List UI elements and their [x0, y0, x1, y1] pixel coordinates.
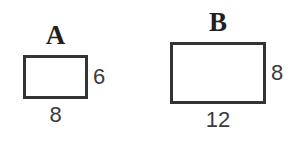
rectangle-a: [23, 55, 88, 99]
shape-label-a: A: [23, 22, 88, 49]
shape-label-b: B: [170, 9, 266, 36]
rectangle-b: [170, 42, 266, 104]
dimension-b-height: 8: [271, 62, 283, 84]
dimension-a-height: 6: [93, 66, 105, 88]
dimension-a-width: 8: [23, 104, 88, 126]
rectangles-diagram: A 6 8 B 8 12: [0, 0, 296, 144]
dimension-b-width: 12: [170, 109, 266, 131]
